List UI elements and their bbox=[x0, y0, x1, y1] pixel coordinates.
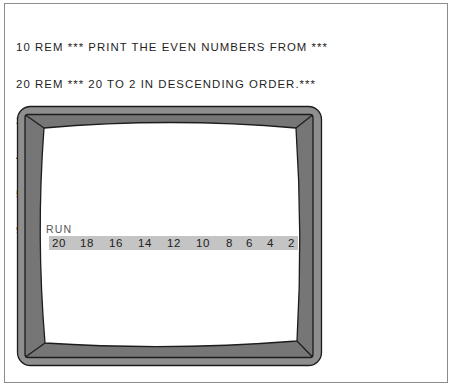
output-value: 6 bbox=[246, 236, 253, 250]
output-value: 16 bbox=[109, 236, 123, 250]
output-value: 2 bbox=[288, 236, 295, 250]
output-value: 18 bbox=[80, 236, 94, 250]
output-value: 12 bbox=[167, 236, 181, 250]
output-value: 20 bbox=[52, 236, 66, 250]
output-value: 4 bbox=[267, 236, 274, 250]
output-value: 8 bbox=[226, 236, 233, 250]
run-command: RUN bbox=[46, 223, 72, 235]
monitor-screen bbox=[40, 123, 300, 347]
crt-monitor-illustration bbox=[0, 0, 450, 390]
output-value: 10 bbox=[196, 236, 210, 250]
output-value: 14 bbox=[138, 236, 152, 250]
